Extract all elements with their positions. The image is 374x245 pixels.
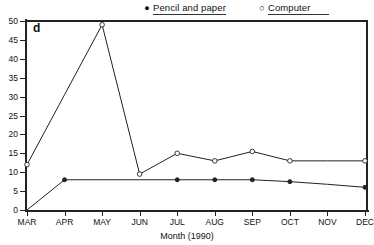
y-tick-label: 25 bbox=[0, 111, 18, 121]
x-tick-label: SEP bbox=[244, 217, 261, 227]
y-tick-label: 5 bbox=[0, 186, 18, 196]
y-tick-label: 0 bbox=[0, 205, 18, 215]
chart-legend: ● Pencil and paper ○ Computer bbox=[0, 0, 374, 17]
x-tick bbox=[27, 212, 28, 216]
legend-label-computer: Computer bbox=[268, 2, 329, 15]
chart-figure: ● Pencil and paper ○ Computer d 05101520… bbox=[0, 0, 374, 245]
panel-label: d bbox=[33, 21, 41, 35]
x-tick-label: JUL bbox=[170, 217, 185, 227]
y-tick bbox=[20, 116, 25, 117]
x-tick bbox=[365, 212, 366, 216]
y-axis-labels: 05101520253035404550 bbox=[0, 0, 18, 245]
y-tick bbox=[20, 59, 25, 60]
x-tick bbox=[177, 212, 178, 216]
y-tick bbox=[20, 21, 25, 22]
y-tick bbox=[20, 134, 25, 135]
x-tick-label: DEC bbox=[356, 217, 374, 227]
open-circle-icon: ○ bbox=[258, 4, 266, 13]
x-tick-label: JUN bbox=[131, 217, 148, 227]
y-tick bbox=[20, 97, 25, 98]
x-tick-label: NOV bbox=[318, 217, 336, 227]
legend-item-pencil-and-paper: ● Pencil and paper bbox=[143, 2, 226, 15]
y-tick bbox=[20, 40, 25, 41]
y-tick bbox=[20, 78, 25, 79]
filled-dot-icon: ● bbox=[143, 4, 151, 13]
x-tick bbox=[327, 212, 328, 216]
x-axis-line bbox=[25, 210, 369, 212]
y-tick-label: 30 bbox=[0, 92, 18, 102]
y-tick bbox=[20, 210, 25, 211]
y-tick-label: 50 bbox=[0, 16, 18, 26]
x-tick-label: OCT bbox=[281, 217, 299, 227]
y-tick bbox=[20, 153, 25, 154]
x-tick bbox=[215, 212, 216, 216]
x-axis-title: Month (1990) bbox=[0, 231, 374, 241]
x-tick bbox=[65, 212, 66, 216]
x-tick-label: MAY bbox=[93, 217, 111, 227]
y-tick-label: 20 bbox=[0, 129, 18, 139]
x-tick-label: APR bbox=[56, 217, 73, 227]
x-tick bbox=[290, 212, 291, 216]
x-tick-label: AUG bbox=[206, 217, 224, 227]
y-tick-label: 45 bbox=[0, 35, 18, 45]
legend-label-pencil-and-paper: Pencil and paper bbox=[153, 2, 226, 15]
y-tick-label: 35 bbox=[0, 73, 18, 83]
y-tick bbox=[20, 191, 25, 192]
x-tick bbox=[252, 212, 253, 216]
y-tick-label: 40 bbox=[0, 54, 18, 64]
y-axis-line bbox=[25, 19, 27, 212]
x-tick-label: MAR bbox=[18, 217, 37, 227]
x-tick bbox=[102, 212, 103, 216]
y-tick bbox=[20, 172, 25, 173]
y-tick-label: 15 bbox=[0, 148, 18, 158]
x-tick bbox=[140, 212, 141, 216]
legend-item-computer: ○ Computer bbox=[258, 2, 329, 15]
plot-frame bbox=[26, 20, 368, 211]
y-tick-label: 10 bbox=[0, 167, 18, 177]
